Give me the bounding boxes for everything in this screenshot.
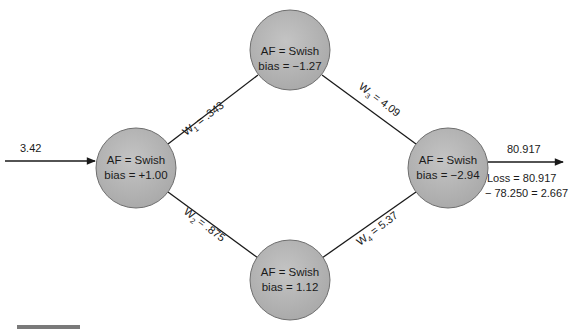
weight-label-w2: W2 = .875 xyxy=(180,205,228,246)
figure-caption-bar xyxy=(17,325,80,329)
weight-label-w1: W1 = .343 xyxy=(180,99,228,140)
output-value: 80.917 xyxy=(507,143,541,155)
svg-text:AF = Swish: AF = Swish xyxy=(261,45,319,57)
node-input: AF = Swish bias = +1.00 xyxy=(96,128,176,208)
node-output: AF = Swish bias = −2.94 xyxy=(408,128,488,208)
svg-text:bias = +1.00: bias = +1.00 xyxy=(104,169,167,181)
weight-label-w4: W4 = 5.37 xyxy=(354,209,402,250)
svg-text:bias = −1.27: bias = −1.27 xyxy=(258,60,321,72)
svg-text:W2 = .875: W2 = .875 xyxy=(180,205,228,246)
svg-text:bias = 1.12: bias = 1.12 xyxy=(262,281,319,293)
node-hidden-bottom: AF = Swish bias = 1.12 xyxy=(250,240,330,320)
loss-line2: − 78.250 = 2.667 xyxy=(485,187,568,199)
svg-text:W4 = 5.37: W4 = 5.37 xyxy=(354,209,402,250)
neural-network-diagram: 3.42 80.917 Loss = 80.917 − 78.250 = 2.6… xyxy=(0,0,576,329)
svg-text:bias = −2.94: bias = −2.94 xyxy=(416,169,480,181)
weight-label-w3: W3 = 4.09 xyxy=(355,80,403,121)
edge-w4 xyxy=(322,192,416,258)
svg-text:AF = Swish: AF = Swish xyxy=(107,154,165,166)
svg-text:W3 = 4.09: W3 = 4.09 xyxy=(355,80,403,121)
svg-text:AF = Swish: AF = Swish xyxy=(261,266,319,278)
input-value: 3.42 xyxy=(20,142,41,154)
node-hidden-top: AF = Swish bias = −1.27 xyxy=(250,10,330,90)
loss-line1: Loss = 80.917 xyxy=(487,172,556,184)
svg-text:AF = Swish: AF = Swish xyxy=(419,154,477,166)
svg-text:W1 = .343: W1 = .343 xyxy=(180,99,228,140)
